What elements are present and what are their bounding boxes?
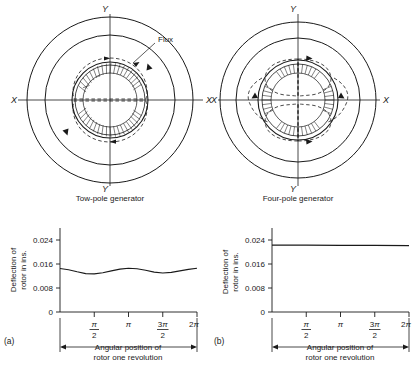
chart-b: 0 0.008 0.016 0.024 π 2 π 3π 2 2π Angula… bbox=[214, 228, 412, 362]
chart-a-ytick-2: 0.016 bbox=[33, 260, 54, 269]
flux-leader-line bbox=[133, 43, 155, 63]
chart-b-span-arrow-left bbox=[272, 345, 278, 350]
svg-text:2: 2 bbox=[304, 331, 309, 340]
panel-label-a: (a) bbox=[4, 336, 15, 346]
panel-label-b: (b) bbox=[214, 336, 225, 346]
chart-b-ytick-1: 0.008 bbox=[245, 284, 266, 293]
four-pole-x-right-label: X bbox=[382, 95, 390, 105]
chart-a-ytick-3: 0.024 bbox=[33, 236, 54, 245]
svg-text:3π: 3π bbox=[370, 320, 380, 329]
two-pole-flux-arrow-top bbox=[104, 57, 111, 61]
four-pole-x-left-label: X bbox=[210, 95, 218, 105]
two-pole-flux-arrow-left bbox=[63, 129, 69, 136]
chart-a-ylabel-line2: rotor in ins. bbox=[19, 250, 28, 290]
two-pole-flux-arrow-bottom bbox=[110, 140, 117, 144]
four-pole-flux-arrow-left bbox=[252, 93, 259, 99]
two-pole-x-left-label: X bbox=[10, 95, 18, 105]
chart-b-xtick-0: π 2 bbox=[302, 320, 312, 340]
chart-a: 0 0.008 0.016 0.024 π 2 π 3π 2 2π bbox=[4, 228, 200, 362]
chart-b-ytick-2: 0.016 bbox=[245, 260, 266, 269]
svg-text:2: 2 bbox=[161, 331, 166, 340]
chart-b-xtick-2: 3π 2 bbox=[369, 320, 381, 340]
four-pole-y-top-label: Y bbox=[290, 4, 297, 14]
two-pole-y-top-label: Y bbox=[102, 4, 109, 14]
chart-a-xtick-2: 3π 2 bbox=[157, 320, 169, 340]
svg-text:3π: 3π bbox=[158, 320, 168, 329]
chart-a-span-arrow-left bbox=[60, 345, 66, 350]
chart-a-x-ticks bbox=[94, 312, 197, 317]
chart-b-xlabel-line1: Angular position of bbox=[307, 343, 374, 352]
chart-a-xlabel-line1: Angular position of bbox=[95, 343, 162, 352]
four-pole-caption: Four-pole generator bbox=[263, 194, 334, 203]
chart-a-span-arrow-right bbox=[191, 345, 197, 350]
figure-root: Flux Y Y X X Tow-pole generator bbox=[0, 0, 419, 370]
chart-b-ylabel-line1: Deflection of bbox=[221, 249, 230, 294]
chart-b-xtick-1: π bbox=[338, 320, 344, 329]
flux-label: Flux bbox=[158, 35, 173, 44]
four-pole-flux-arrow-right bbox=[338, 93, 345, 99]
chart-b-xlabel-line2: rotor one revolution bbox=[306, 353, 375, 362]
svg-text:π: π bbox=[92, 320, 98, 329]
chart-a-data-line bbox=[60, 268, 197, 274]
chart-b-ylabel-line2: rotor in ins. bbox=[231, 252, 240, 292]
figure-svg: Flux Y Y X X Tow-pole generator bbox=[0, 0, 419, 370]
chart-b-span-arrow-right bbox=[403, 345, 409, 350]
chart-b-xtick-3: 2π bbox=[401, 320, 411, 329]
two-pole-caption: Tow-pole generator bbox=[76, 194, 145, 203]
diagram-four-pole: Y Y X X Four-pole generator bbox=[210, 4, 390, 203]
chart-a-ytick-0: 0 bbox=[49, 308, 54, 317]
diagram-two-pole: Flux Y Y X X Tow-pole generator bbox=[10, 4, 213, 203]
four-pole-y-bottom-label: Y bbox=[290, 184, 297, 194]
svg-text:2: 2 bbox=[373, 331, 378, 340]
chart-a-xtick-3: 2π bbox=[189, 320, 199, 329]
two-pole-flux-arrow-right bbox=[147, 64, 153, 71]
svg-text:π: π bbox=[304, 320, 310, 329]
chart-a-ylabel-line1: Deflection of bbox=[9, 247, 18, 292]
chart-a-ytick-1: 0.008 bbox=[33, 284, 54, 293]
svg-text:2: 2 bbox=[92, 331, 97, 340]
chart-a-xtick-0: π 2 bbox=[90, 320, 100, 340]
chart-b-ytick-3: 0.024 bbox=[245, 236, 266, 245]
chart-b-x-ticks bbox=[306, 312, 409, 317]
two-pole-y-bottom-label: Y bbox=[102, 184, 109, 194]
chart-a-xtick-1: π bbox=[126, 320, 132, 329]
chart-a-y-ticks bbox=[56, 240, 60, 312]
chart-b-data-line bbox=[272, 245, 409, 246]
chart-b-y-ticks bbox=[268, 240, 272, 312]
chart-a-xlabel-line2: rotor one revolution bbox=[94, 353, 163, 362]
chart-b-ytick-0: 0 bbox=[261, 308, 266, 317]
